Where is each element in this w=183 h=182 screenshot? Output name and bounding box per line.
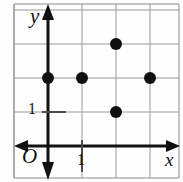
x-axis-label: x (165, 150, 173, 169)
y-axis-tick-label: 1 (28, 101, 36, 117)
coordinate-plane-figure: y x O 1 1 (0, 0, 183, 182)
data-point (144, 72, 156, 84)
data-point (76, 72, 88, 84)
data-point (110, 38, 122, 50)
data-point (110, 106, 122, 118)
origin-label: O (22, 146, 37, 167)
data-point (42, 72, 54, 84)
y-axis-label: y (30, 6, 39, 27)
x-axis-tick-label: 1 (77, 152, 85, 168)
